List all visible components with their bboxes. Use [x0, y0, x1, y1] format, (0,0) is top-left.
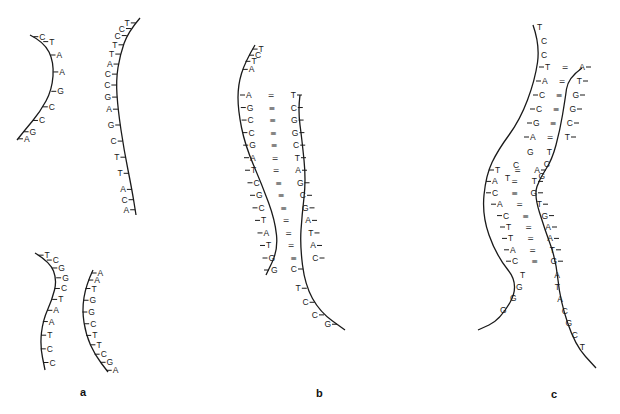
hydrogen-bond: ≡ [269, 116, 276, 125]
paired-base-right: A [310, 240, 316, 250]
nucleotide-base: G [271, 265, 278, 275]
paired-base-left: C [536, 104, 542, 114]
paired-base-left: T [495, 165, 500, 175]
paired-base-left: C [492, 188, 498, 198]
hydrogen-bond: = [273, 166, 280, 175]
hydrogen-bond: = [285, 229, 292, 238]
hydrogen-bond: = [288, 241, 295, 250]
nucleotide-base: C [291, 264, 297, 274]
paired-base-left: A [264, 228, 270, 238]
paired-base-left: A [510, 245, 516, 255]
tail-base-left: G [516, 282, 523, 292]
nucleotide-base: A [106, 104, 112, 114]
nucleotide-base: G [62, 273, 69, 283]
paired-base-left: T [508, 233, 513, 243]
paired-base-right: G [569, 104, 576, 114]
paired-base-left: A [542, 76, 548, 86]
hydrogen-bond: = [529, 246, 536, 255]
hydrogen-bond: ≡ [531, 257, 538, 266]
nucleotide-base: T [49, 37, 54, 47]
paired-base-left: C [539, 90, 545, 100]
paired-base-left: C [503, 211, 509, 221]
loop-base-right: C [544, 159, 550, 169]
paired-base-left: G [256, 190, 263, 200]
nucleotide-base: C [121, 195, 127, 205]
nucleotide-base: T [117, 168, 122, 178]
tail-base-right: A [554, 270, 560, 280]
paired-base-left: A [497, 199, 503, 209]
panel-c-duplex-with-loop: TCCT=AA=TC≡GC≡GG≡CA=TGCTTCGT=AA=TC≡GA=TC… [478, 22, 596, 368]
tail-base-left: G [500, 305, 507, 315]
hydrogen-bond: = [527, 234, 534, 243]
paired-base-right: G [292, 128, 299, 138]
panel-a-single-strands: CTAAGCCGATCCTTACCGAGCTTACATCGGCTAATCCAAT… [17, 18, 140, 375]
tail-base-right: T [555, 282, 560, 292]
paired-base-left: T [506, 222, 511, 232]
paired-base-right: T [295, 153, 300, 163]
hydrogen-bond: = [562, 63, 569, 72]
hydrogen-bond: ≡ [278, 191, 285, 200]
paired-base-left: A [246, 90, 252, 100]
paired-base-right: A [545, 222, 551, 232]
nucleotide-base: C [302, 297, 308, 307]
nucleotide-base: C [49, 102, 55, 112]
paired-base-right: C [567, 118, 573, 128]
paired-base-right: C [291, 103, 297, 113]
paired-base-right: C [300, 190, 306, 200]
paired-base-right: T [550, 245, 555, 255]
nucleotide-base: T [47, 330, 52, 340]
hydrogen-bond: ≡ [290, 254, 297, 263]
nucleotide-base: C [39, 32, 45, 42]
nucleotide-base: T [537, 22, 542, 32]
nucleotide-base: A [123, 205, 129, 215]
tail-base-right: G [565, 318, 572, 328]
paired-base-right: A [547, 233, 553, 243]
nucleotide-base: C [39, 115, 45, 125]
paired-base-right: C [293, 140, 299, 150]
paired-base-right: A [295, 165, 301, 175]
nucleotide-base: A [49, 317, 55, 327]
tail-base-right: A [557, 294, 563, 304]
nucleotide-base: G [57, 86, 64, 96]
paired-base-right: G [572, 90, 579, 100]
paired-base-right: A [579, 62, 585, 72]
paired-base-right: A [305, 215, 311, 225]
loop-base-right: T [547, 147, 552, 157]
nucleotide-base: T [125, 18, 130, 28]
paired-base-left: G [269, 253, 276, 263]
paired-base-left: G [249, 140, 256, 150]
hydrogen-bond: = [514, 166, 521, 175]
nucleotide-base: G [324, 319, 331, 329]
paired-base-right: T [565, 132, 570, 142]
nucleotide-base: T [109, 49, 114, 59]
tail-base-right: C [562, 306, 568, 316]
paired-base-left: C [254, 178, 260, 188]
nucleotide-base: C [105, 69, 111, 79]
nucleotide-base: C [47, 344, 53, 354]
paired-base-right: T [308, 228, 313, 238]
nucleotide-base: G [30, 127, 37, 137]
paired-base-right: T [291, 90, 296, 100]
hydrogen-bond: = [525, 223, 532, 232]
nucleotide-base: G [108, 120, 115, 130]
nucleotide-base: A [57, 50, 63, 60]
paired-base-right: G [550, 256, 557, 266]
paired-base-left: C [512, 256, 518, 266]
paired-base-left: A [492, 176, 498, 186]
tail-base-left: T [520, 270, 525, 280]
hydrogen-bond: ≡ [270, 129, 277, 138]
paired-base-right: G [541, 211, 548, 221]
tail-base-left: G [510, 293, 517, 303]
nucleotide-base: G [88, 307, 95, 317]
dna-hybridization-figure: CTAAGCCGATCCTTACCGAGCTTACATCGGCTAATCCAAT… [0, 0, 620, 414]
nucleotide-base: T [45, 250, 50, 260]
hydrogen-bond: = [511, 177, 518, 186]
loop-base-left: T [505, 173, 510, 183]
paired-base-left: A [250, 153, 256, 163]
hydrogen-bond: ≡ [522, 212, 529, 221]
tail-base-right: C [572, 330, 578, 340]
hydrogen-bond: ≡ [268, 104, 275, 113]
panel-label-a: a [80, 386, 87, 398]
paired-base-left: G [533, 118, 540, 128]
paired-base-right: G [302, 203, 309, 213]
